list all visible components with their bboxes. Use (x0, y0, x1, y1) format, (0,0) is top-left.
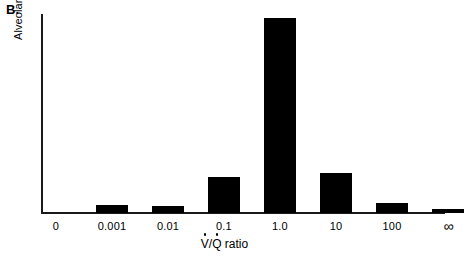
bar-1.0 (264, 18, 296, 213)
x-tick-label-0.1: 0.1 (194, 220, 254, 232)
x-tick-label-10: 10 (306, 220, 366, 232)
bar-10 (320, 173, 352, 213)
x-axis-title: V/Q ratio (0, 237, 449, 251)
x-tick-label-0.001: 0.001 (82, 220, 142, 232)
x-axis-title-v: V (201, 237, 209, 251)
bar-100 (376, 203, 408, 213)
x-axis-title-q: Q (212, 237, 221, 251)
x-tick-label-0: 0 (26, 220, 86, 232)
x-tick-label-100: 100 (362, 220, 422, 232)
x-tick-label-0.01: 0.01 (138, 220, 198, 232)
bar-0.001 (96, 205, 128, 213)
bar-0.1 (208, 177, 240, 213)
y-axis-title: Alveolar blood flow (12, 0, 28, 40)
x-tick-label-infinity: ∞ (418, 218, 468, 234)
bar-0.01 (152, 206, 184, 213)
bar-infinity (432, 209, 464, 213)
x-tick-label-1.0: 1.0 (250, 220, 310, 232)
plot-area (41, 14, 445, 213)
x-axis-title-suffix: ratio (222, 237, 249, 251)
